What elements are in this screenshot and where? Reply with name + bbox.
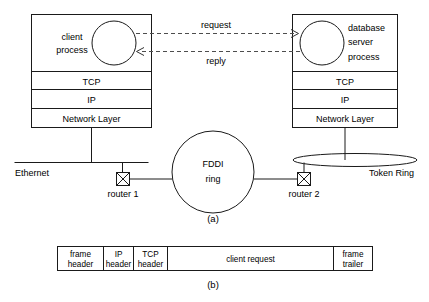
fddi-label-line2: ring: [205, 174, 220, 184]
frame-cell-0-line1: frame: [70, 250, 91, 259]
router1-label: router 1: [107, 189, 138, 199]
router-2: router 2: [254, 163, 320, 200]
client-process-circle: [92, 21, 136, 65]
server-layer-ip-label: IP: [341, 95, 350, 105]
frame-outline: [58, 247, 373, 271]
request-label: request: [201, 20, 232, 30]
fddi-label-line1: FDDI: [203, 159, 224, 169]
ethernet-network: Ethernet: [15, 128, 149, 179]
router-1: router 1: [107, 163, 172, 200]
frame-cell-3-line1: client request: [226, 255, 275, 264]
token-ring-ellipse: [293, 154, 417, 167]
token-ring-network: Token Ring: [293, 128, 417, 179]
router2-label: router 2: [288, 189, 319, 199]
frame-cell-2-line2: header: [138, 260, 164, 269]
fddi-ring-circle: [172, 131, 254, 213]
server-process-circle: [300, 21, 344, 65]
server-layer-tcp-label: TCP: [336, 77, 354, 87]
frame-cell-1-line1: IP: [115, 250, 123, 259]
server-process-label-line3: process: [348, 52, 380, 62]
client-host-stack: client process TCP IP Network Layer: [32, 15, 152, 128]
client-layer-ip-label: IP: [87, 95, 96, 105]
server-layer-network-label: Network Layer: [316, 114, 374, 124]
frame-cell-1-line2: header: [106, 260, 132, 269]
frame-cell-4-line1: frame: [343, 250, 364, 259]
diagram-canvas: client process TCP IP Network Layer data…: [0, 0, 429, 302]
client-layer-network-label: Network Layer: [62, 114, 120, 124]
request-message-arrow: request: [136, 20, 299, 38]
ethernet-label: Ethernet: [15, 168, 50, 178]
reply-label: reply: [206, 56, 226, 66]
frame-format-diagram: frame header IP header TCP header client…: [58, 247, 373, 271]
reply-message-arrow: reply: [137, 48, 301, 67]
network-diagram: client process TCP IP Network Layer data…: [0, 0, 429, 302]
figure-b-caption: (b): [207, 279, 219, 290]
server-process-label-line2: server: [348, 37, 373, 47]
frame-cell-4-line2: trailer: [343, 260, 364, 269]
frame-cell-0-line2: header: [68, 260, 94, 269]
client-process-label-line2: process: [56, 45, 88, 55]
fddi-ring-network: FDDI ring: [172, 131, 254, 213]
figure-a-caption: (a): [207, 213, 219, 224]
client-process-label-line1: client: [61, 32, 83, 42]
token-ring-label: Token Ring: [369, 168, 414, 178]
client-layer-tcp-label: TCP: [83, 77, 101, 87]
server-host-stack: database server process TCP IP Network L…: [293, 15, 398, 128]
server-process-label-line1: database: [348, 23, 385, 33]
frame-cell-2-line1: TCP: [142, 250, 159, 259]
